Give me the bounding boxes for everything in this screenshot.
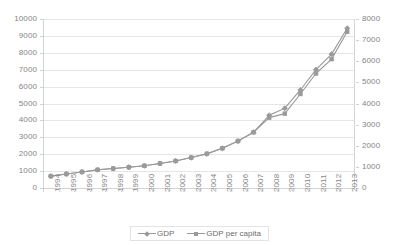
left-axis-tick-label: 6000 (5, 83, 37, 91)
series-point-marker (267, 116, 271, 120)
chart-legend: GDPGDP per capita (130, 226, 269, 241)
category-axis-tick-mark (43, 189, 44, 192)
series-line (51, 32, 347, 177)
series-point-marker (205, 152, 209, 156)
gdp-dual-axis-line-chart: 0100020003000400050006000700080009000100… (0, 0, 401, 245)
left-axis-tick-label: 0 (5, 184, 37, 192)
series-point-marker (299, 92, 303, 96)
legend-entry-1[interactable]: GDP (138, 229, 174, 238)
legend-label: GDP (156, 229, 174, 238)
left-axis-tick-label: 2000 (5, 150, 37, 158)
left-axis-tick-label: 1000 (5, 167, 37, 175)
category-axis-tick-mark (277, 189, 278, 192)
category-axis-tick-mark (105, 189, 106, 192)
diamond-marker-icon (138, 229, 156, 238)
series-point-marker (314, 72, 318, 76)
series-point-marker (252, 130, 256, 134)
left-axis-tick-label: 3000 (5, 133, 37, 141)
category-axis-tick-mark (59, 189, 60, 192)
right-axis-tick-label: 7000 (362, 36, 380, 44)
right-axis-tick-label: 4000 (362, 100, 380, 108)
category-axis-tick-mark (199, 189, 200, 192)
series-point-marker (65, 172, 69, 176)
left-axis-tick-label: 10000 (5, 15, 37, 23)
category-axis-tick-mark (246, 189, 247, 192)
category-axis-tick-mark (293, 189, 294, 192)
legend-label: GDP per capita (205, 229, 261, 238)
category-axis-tick-mark (230, 189, 231, 192)
right-axis-tick-mark (356, 19, 359, 20)
left-axis-tick-label: 5000 (5, 100, 37, 108)
series-2 (49, 30, 349, 178)
series-point-marker (143, 164, 147, 168)
category-axis-tick-mark (215, 189, 216, 192)
right-axis-tick-label: 5000 (362, 78, 380, 86)
category-axis-tick-mark (339, 189, 340, 192)
right-axis-tick-label: 8000 (362, 15, 380, 23)
category-axis-tick-mark (308, 189, 309, 192)
series-point-marker (127, 165, 131, 169)
legend-entry-2[interactable]: GDP per capita (187, 229, 261, 238)
series-point-marker (189, 156, 193, 160)
category-axis-tick-mark (90, 189, 91, 192)
plot-area (43, 19, 355, 188)
series-layer (43, 19, 355, 188)
series-point-marker (330, 57, 334, 61)
right-axis-tick-mark (356, 40, 359, 41)
left-axis-tick-label: 4000 (5, 116, 37, 124)
series-point-marker (221, 146, 225, 150)
series-point-marker (158, 162, 162, 166)
category-axis-tick-mark (152, 189, 153, 192)
right-axis-tick-label: 0 (362, 184, 367, 192)
right-axis-tick-mark (356, 104, 359, 105)
series-point-marker (96, 168, 100, 172)
right-axis-tick-mark (356, 146, 359, 147)
category-axis-tick-mark (137, 189, 138, 192)
category-axis-tick-mark (324, 189, 325, 192)
category-axis-tick-label: 2013 (351, 174, 359, 192)
category-axis-tick-mark (261, 189, 262, 192)
category-axis-tick-mark (74, 189, 75, 192)
left-axis-tick-label: 7000 (5, 66, 37, 74)
square-marker-icon (187, 229, 205, 238)
series-point-marker (283, 112, 287, 116)
series-point-marker (80, 170, 84, 174)
left-axis-tick-label: 9000 (5, 32, 37, 40)
right-axis-tick-label: 6000 (362, 57, 380, 65)
series-point-marker (111, 167, 115, 171)
category-axis-tick-mark (168, 189, 169, 192)
series-line (51, 28, 347, 176)
right-axis-tick-label: 2000 (362, 142, 380, 150)
series-point-marker (174, 159, 178, 163)
right-axis-tick-mark (356, 61, 359, 62)
right-axis-tick-label: 1000 (362, 163, 380, 171)
left-axis-tick-label: 8000 (5, 49, 37, 57)
category-axis-tick-mark (121, 189, 122, 192)
series-point-marker (236, 139, 240, 143)
right-axis-tick-label: 3000 (362, 121, 380, 129)
right-axis-tick-mark (356, 167, 359, 168)
series-point-marker (345, 30, 349, 34)
right-axis-tick-mark (356, 82, 359, 83)
right-axis-tick-mark (356, 125, 359, 126)
category-axis-tick-mark (183, 189, 184, 192)
